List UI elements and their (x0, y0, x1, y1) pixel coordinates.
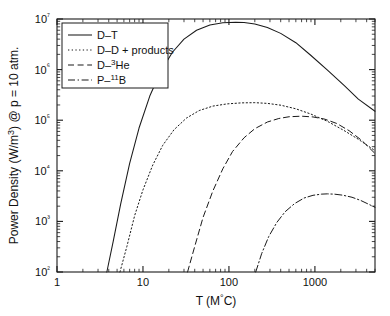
x-axis-tick-labels: 1101001000 (54, 276, 327, 288)
y-tick-label: 10⁶ (34, 62, 50, 76)
y-tick-label: 10⁷ (35, 12, 50, 26)
x-axis-title: T (M°C) (196, 293, 237, 308)
series-line-2 (120, 103, 375, 272)
series-line-3 (188, 116, 375, 272)
chart-canvas: 1101001000 10²10³10⁴10⁵10⁶10⁷ D–TD–D + p… (0, 0, 390, 316)
y-axis-title: Power Density (W/m3) @ p = 10 atm. (6, 47, 21, 245)
y-tick-label: 10² (35, 265, 50, 279)
y-tick-label: 10³ (35, 214, 50, 228)
fusion-power-density-chart: 1101001000 10²10³10⁴10⁵10⁶10⁷ D–TD–D + p… (0, 0, 390, 316)
x-tick-label: 10 (137, 276, 149, 288)
y-tick-label: 10⁴ (34, 163, 50, 177)
x-tick-label: 1 (54, 276, 60, 288)
x-tick-label: 100 (220, 276, 238, 288)
legend-label-2: D–D + products (97, 44, 174, 56)
legend-label-1: D–T (97, 29, 118, 41)
chart-legend: D–TD–D + productsD–3HeP–11B (62, 23, 174, 88)
y-axis-tick-labels: 10²10³10⁴10⁵10⁶10⁷ (34, 12, 50, 279)
x-tick-label: 1000 (303, 276, 327, 288)
series-line-4 (256, 194, 375, 272)
y-tick-label: 10⁵ (34, 113, 50, 127)
